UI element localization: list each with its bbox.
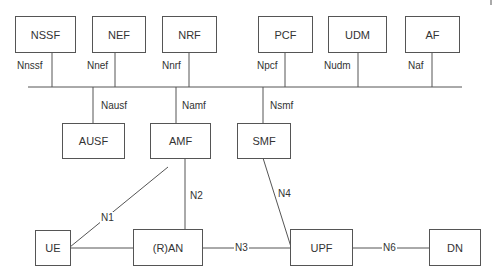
node-label: AMF [169, 135, 192, 147]
node-nrf: NRF [162, 16, 217, 53]
node-label: UPF [311, 242, 333, 254]
label-nnrf: Nnrf [162, 60, 181, 72]
node-label: DN [447, 242, 463, 254]
label-n4: N4 [278, 188, 291, 200]
label-npcf: Npcf [257, 60, 278, 72]
label-namf: Namf [182, 100, 206, 112]
node-ue: UE [35, 230, 71, 266]
label-n6: N6 [382, 242, 397, 254]
node-label: NSSF [31, 29, 60, 41]
node-udm: UDM [328, 16, 387, 53]
label-n1: N1 [100, 212, 115, 224]
node-nef: NEF [92, 16, 146, 53]
label-nnef: Nnef [87, 60, 108, 72]
node-pcf: PCF [258, 16, 313, 53]
label-nudm: Nudm [324, 60, 351, 72]
n4-line [263, 158, 291, 247]
node-ran: (R)AN [133, 229, 203, 266]
node-label: NEF [108, 29, 130, 41]
node-label: AF [425, 29, 439, 41]
node-label: AUSF [79, 135, 108, 147]
node-dn: DN [429, 229, 481, 266]
node-label: SMF [252, 135, 275, 147]
node-amf: AMF [150, 123, 211, 159]
label-n3: N3 [234, 242, 249, 254]
node-label: (R)AN [153, 242, 184, 254]
label-naf: Naf [408, 60, 424, 72]
node-label: UDM [345, 29, 370, 41]
node-label: NRF [178, 29, 201, 41]
label-nsmf: Nsmf [270, 100, 293, 112]
node-nssf: NSSF [15, 16, 76, 53]
label-nnssf: Nnssf [17, 60, 43, 72]
node-af: AF [405, 16, 460, 53]
label-nausf: Nausf [101, 100, 127, 112]
node-label: UE [45, 242, 60, 254]
node-label: PCF [275, 29, 297, 41]
node-smf: SMF [237, 123, 291, 159]
label-n2: N2 [190, 190, 203, 202]
node-ausf: AUSF [62, 123, 125, 159]
node-upf: UPF [290, 229, 353, 266]
